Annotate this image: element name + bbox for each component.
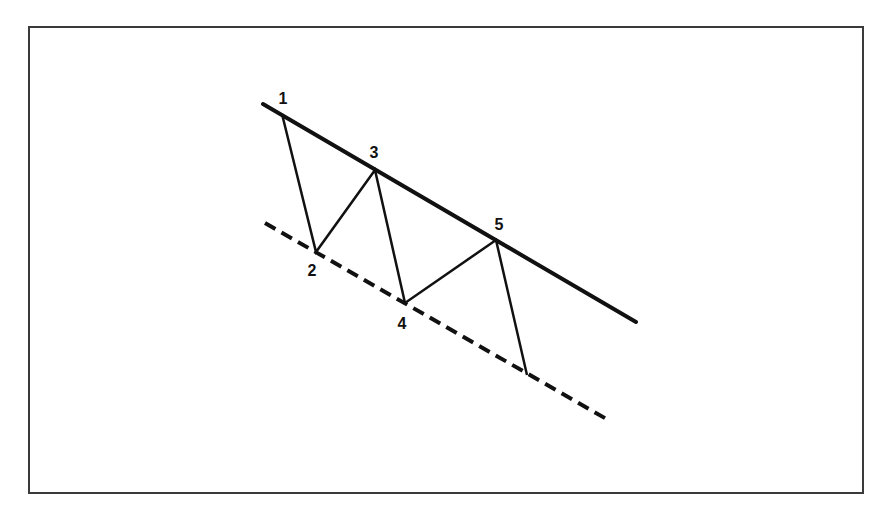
wave-point-label-3: 3 (370, 144, 379, 161)
wave-point-label-2: 2 (308, 262, 317, 279)
upper-resistance-trendline (263, 104, 636, 322)
wave-point-label-4: 4 (398, 315, 407, 332)
wave-point-label-1: 1 (279, 90, 288, 107)
wave-path (282, 114, 527, 375)
wave-channel-diagram: 1 2 3 4 5 (0, 0, 896, 527)
wave-point-label-5: 5 (495, 216, 504, 233)
